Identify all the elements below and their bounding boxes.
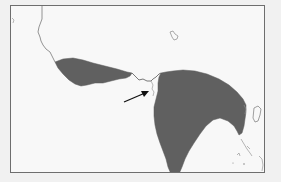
range-western	[55, 58, 132, 86]
island-north	[170, 31, 178, 40]
island-chain	[241, 139, 252, 156]
coastline-central	[132, 73, 161, 81]
range-eastern	[154, 70, 246, 173]
map-canvas	[11, 6, 265, 173]
coastline-west	[38, 6, 55, 62]
map-frame: Distribution range map Type localit	[10, 5, 265, 173]
arrow-annotation	[124, 91, 149, 102]
island-east	[253, 106, 261, 122]
